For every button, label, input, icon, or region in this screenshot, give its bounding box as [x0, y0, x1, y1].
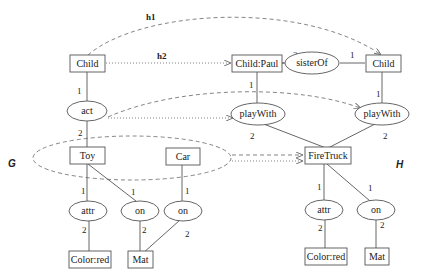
- edge-label: 1: [376, 89, 381, 99]
- concept-mat-g-label: Mat: [132, 254, 148, 265]
- relation-on-toy-label: on: [135, 205, 145, 216]
- edge-firetruck-on: [327, 164, 370, 201]
- mapping-h1-arrow: [88, 17, 380, 55]
- relation-playwith-left-label: playWith: [240, 108, 277, 119]
- mapping-label-h2: h2: [157, 51, 167, 61]
- edge-label: 1: [131, 187, 136, 197]
- edge-label: 1: [350, 50, 355, 60]
- relation-sisterof-label: sisterOf: [296, 57, 328, 68]
- edge-label: 1: [317, 182, 322, 192]
- edge-label: 2: [82, 225, 87, 235]
- graph-label-h: H: [396, 159, 404, 170]
- edge-label: 2: [78, 128, 83, 138]
- concept-color-red-g-label: Color:red: [71, 254, 109, 265]
- relation-attr-h-label: attr: [317, 204, 331, 215]
- concept-toy-label: Toy: [80, 150, 95, 161]
- subgraph-selection-ellipse: [33, 136, 231, 180]
- edge-toy-on: [88, 164, 136, 201]
- mapping-label-h1: h1: [146, 12, 156, 22]
- relation-on-h-label: on: [371, 204, 381, 215]
- concept-car-label: Car: [176, 151, 191, 162]
- edge-label: 2: [318, 223, 323, 233]
- concept-child-paul-label: Child:Paul: [236, 58, 279, 69]
- edge-playwith-left-firetruck: [261, 123, 326, 148]
- concept-mat-h-label: Mat: [369, 251, 385, 262]
- edge-label: 1: [81, 186, 86, 196]
- edge-label: 1: [185, 186, 190, 196]
- conceptual-graph-diagram: h1 h2 G H 1 2 1 2 1 2 1 2 Child act Toy …: [0, 0, 436, 279]
- edge-label: 1: [77, 86, 82, 96]
- relation-act-label: act: [81, 105, 93, 116]
- concept-child-g-label: Child: [76, 58, 98, 69]
- graph-label-g: G: [8, 158, 16, 169]
- edge-label: 2: [142, 225, 147, 235]
- relation-attr-g-label: attr: [81, 205, 95, 216]
- edge-playwith-right-firetruck: [328, 123, 377, 148]
- concept-child-h-label: Child: [372, 58, 394, 69]
- edge-label: 1: [368, 183, 373, 193]
- edge-label: 2: [380, 220, 385, 230]
- edge-label: 2: [250, 131, 255, 141]
- edge-label: 2: [185, 229, 190, 239]
- edge-label: 1: [249, 80, 254, 90]
- concept-color-red-h-label: Color:red: [307, 251, 345, 262]
- edge-on-car-mat: [142, 220, 180, 254]
- concept-firetruck-label: FireTruck: [308, 150, 348, 161]
- relation-playwith-right-label: playWith: [364, 108, 401, 119]
- edge-label: 2: [383, 131, 388, 141]
- relation-on-car-label: on: [178, 205, 188, 216]
